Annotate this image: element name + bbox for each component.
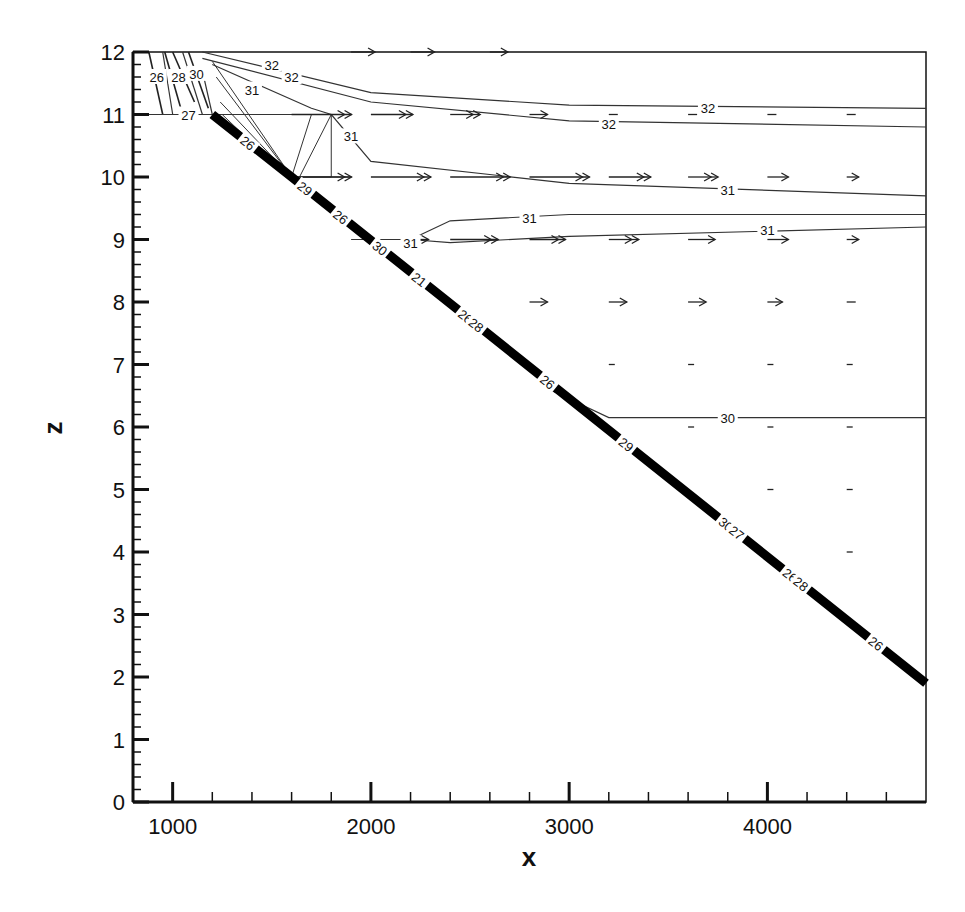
contour-label: 32	[602, 117, 616, 132]
contour-label: 27	[181, 108, 195, 123]
x-tick-label: 4000	[743, 814, 792, 839]
contour-label: 31	[721, 183, 735, 198]
contour-label: 32	[265, 58, 279, 73]
z-tick-label: 11	[102, 103, 125, 128]
contour-label: 30	[721, 411, 735, 426]
bed-boundary: 2629263021262826293027262826	[212, 115, 926, 684]
contour-labels: 323232323131313131313030282726	[147, 57, 778, 426]
contour-label: 30	[189, 67, 203, 82]
x-tick-label: 1000	[148, 814, 197, 839]
contour-plot: 2629263021262826293027262826 32323232313…	[0, 0, 965, 912]
contour-label: 32	[284, 70, 298, 85]
contour-line	[212, 65, 926, 196]
x-tick-label: 2000	[346, 814, 395, 839]
contour-label: 31	[403, 236, 417, 251]
z-axis-title: z	[38, 422, 68, 435]
bed-line	[212, 115, 926, 684]
z-tick-label: 9	[113, 228, 125, 253]
contour-label: 26	[150, 70, 164, 85]
velocity-vectors	[292, 48, 859, 552]
z-tick-label: 1	[113, 728, 125, 753]
contour-label: 31	[760, 223, 774, 238]
plot-frame	[133, 52, 926, 802]
z-tick-label: 5	[113, 478, 125, 503]
x-tick-label: 3000	[545, 814, 594, 839]
contour-line	[202, 52, 926, 108]
z-tick-label: 7	[113, 353, 125, 378]
z-tick-label: 6	[113, 415, 125, 440]
contour-line	[411, 215, 927, 240]
contour-label: 32	[701, 101, 715, 116]
axes: 01234567891011121000200030004000	[101, 40, 926, 839]
contour-label: 31	[245, 83, 259, 98]
z-tick-label: 8	[113, 290, 125, 315]
x-axis-title: x	[522, 842, 537, 872]
z-tick-label: 10	[101, 165, 125, 190]
z-tick-label: 12	[101, 40, 125, 65]
contour-label: 31	[344, 129, 358, 144]
z-tick-label: 3	[113, 603, 125, 628]
contour-label: 31	[522, 211, 536, 226]
z-tick-label: 2	[113, 665, 125, 690]
z-tick-label: 4	[113, 540, 125, 565]
contour-label: 28	[171, 70, 185, 85]
z-tick-label: 0	[113, 790, 125, 815]
